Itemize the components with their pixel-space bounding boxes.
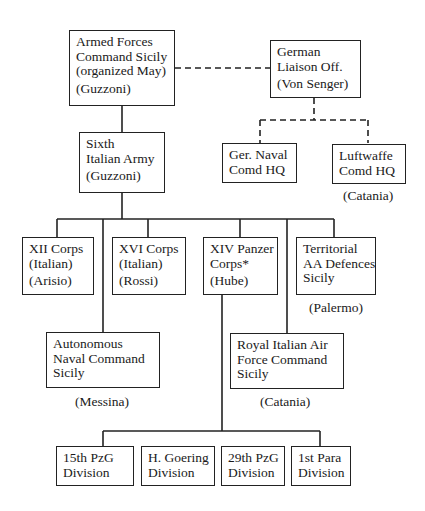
node-label: Italian Army [86, 152, 158, 167]
node-label: Naval Command [53, 352, 153, 367]
node-label: Command Sicily [76, 50, 168, 65]
node-location: (Palermo) [309, 300, 363, 316]
node-label: Ger. Naval [229, 148, 290, 163]
node-commander: (Arisio) [29, 274, 87, 289]
node-label: Territorial [303, 242, 369, 257]
node-location: (Catania) [260, 394, 310, 410]
node-label: Comd HQ [229, 163, 290, 178]
node-luftwaffe-command-hq: Luftwaffe Comd HQ [332, 144, 406, 184]
node-15th-pzg-division: 15th PzG Division [56, 446, 134, 486]
node-commander: (Guzzoni) [76, 82, 168, 97]
node-label: 1st Para [298, 451, 344, 466]
node-territorial-aa-defences: Territorial AA Defences Sicily [296, 237, 376, 295]
node-xii-corps: XII Corps (Italian) (Arisio) [22, 237, 94, 295]
node-label: 15th PzG [63, 451, 127, 466]
node-label: H. Goering [148, 451, 208, 466]
node-label: Corps* [210, 257, 271, 272]
node-armed-forces-command-sicily: Armed Forces Command Sicily (organized M… [69, 30, 175, 106]
node-commander: (Guzzoni) [86, 169, 158, 184]
node-label: Sicily [237, 367, 337, 382]
node-label: German [277, 45, 354, 60]
node-label: Sixth [86, 137, 158, 152]
node-29th-pzg-division: 29th PzG Division [221, 446, 285, 486]
node-label: Sicily [53, 366, 153, 381]
node-label: XIV Panzer [210, 242, 271, 257]
node-label: Comd HQ [339, 164, 399, 179]
node-label: Armed Forces [76, 35, 168, 50]
node-commander: (Von Senger) [277, 77, 354, 92]
node-label: XII Corps [29, 242, 87, 257]
node-label: Force Command [237, 353, 337, 368]
node-xiv-panzer-corps: XIV Panzer Corps* (Hube) [203, 237, 278, 295]
node-h-goering-division: H. Goering Division [141, 446, 215, 486]
node-label: Autonomous [53, 337, 153, 352]
node-label: XVI Corps [119, 242, 179, 257]
node-label: Division [228, 466, 278, 481]
node-german-naval-command-hq: Ger. Naval Comd HQ [222, 143, 297, 183]
node-label: (Italian) [29, 257, 87, 272]
node-label: (Italian) [119, 257, 179, 272]
node-location: (Catania) [343, 188, 393, 204]
node-commander: (Rossi) [119, 274, 179, 289]
node-label: Luftwaffe [339, 149, 399, 164]
node-german-liaison-officer: German Liaison Off. (Von Senger) [270, 40, 361, 98]
node-sixth-italian-army: Sixth Italian Army (Guzzoni) [79, 132, 165, 193]
node-label: (organized May) [76, 64, 168, 79]
node-label: AA Defences [303, 257, 369, 272]
node-label: Division [298, 466, 344, 481]
node-label: Sicily [303, 271, 369, 286]
node-commander: (Hube) [210, 274, 271, 289]
node-location: (Messina) [75, 394, 129, 410]
node-1st-para-division: 1st Para Division [291, 446, 351, 486]
node-label: Division [63, 466, 127, 481]
node-label: 29th PzG [228, 451, 278, 466]
node-label: Liaison Off. [277, 60, 354, 75]
node-autonomous-naval-command: Autonomous Naval Command Sicily [46, 332, 160, 388]
node-royal-italian-air-force-command: Royal Italian Air Force Command Sicily [230, 333, 344, 389]
node-label: Division [148, 466, 208, 481]
node-xvi-corps: XVI Corps (Italian) (Rossi) [112, 237, 186, 295]
node-label: Royal Italian Air [237, 338, 337, 353]
